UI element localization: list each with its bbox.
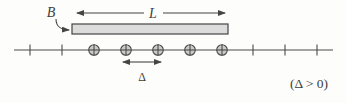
condition-annotation: (Δ > 0)	[290, 76, 328, 91]
figure-canvas: L B Δ (Δ > 0)	[0, 0, 346, 103]
circled-plus-icon	[153, 44, 164, 56]
spacing-label: Δ	[138, 70, 146, 84]
leader-arrow	[56, 19, 69, 30]
physics-diagram: L B Δ (Δ > 0)	[0, 0, 346, 103]
bar	[72, 24, 228, 34]
circled-plus-icon	[89, 44, 100, 56]
circled-plus-icon	[121, 44, 132, 56]
bar-label: B	[47, 5, 56, 20]
length-label: L	[148, 6, 157, 21]
circled-plus-icon	[217, 44, 228, 56]
circled-plus-icon	[185, 44, 196, 56]
